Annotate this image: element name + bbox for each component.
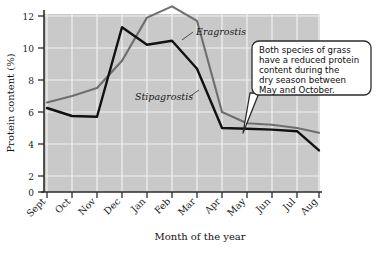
x-tick-apr: Apr [202,195,223,216]
y-tick-2: 2 [28,172,34,182]
chart-figure: 0 2 4 6 8 10 12 Sept Oct Nov [0,0,385,261]
x-tick-may: May [225,195,248,218]
x-tick-mar: Mar [176,195,198,217]
y-tick-8: 8 [28,76,34,86]
y-tick-6: 6 [28,108,34,118]
x-tick-aug: Aug [297,196,319,218]
x-tick-jun: Jun [253,196,273,216]
y-tick-12: 12 [23,12,34,22]
y-axis-title: Protein content (%) [5,53,16,152]
series-label-eragrostis: Eragrostis [195,26,246,37]
x-tick-nov: Nov [76,195,98,217]
x-tick-sept: Sept [24,196,47,219]
protein-content-line-chart: 0 2 4 6 8 10 12 Sept Oct Nov [0,0,385,261]
y-tick-10: 10 [23,44,35,54]
x-tick-dec: Dec [102,196,123,217]
y-axis-ticks [38,16,44,192]
callout-line-1: Both species of grass [259,45,351,55]
x-axis-title: Month of the year [154,231,245,242]
series-label-stipagrostis: Stipagrostis [135,91,193,102]
callout-line-3: content during the [259,65,339,75]
y-axis-tick-labels: 0 2 4 6 8 10 12 [23,12,35,198]
callout-line-2: have a reduced protein [259,55,359,65]
x-axis-tick-labels: Sept Oct Nov Dec Jan Feb Mar Apr May Jun… [24,195,319,219]
x-tick-oct: Oct [53,196,73,216]
callout-line-5: May and October. [259,85,335,95]
x-tick-feb: Feb [152,196,172,216]
x-tick-jul: Jul [280,196,298,214]
series-label-stipagrostis-group: Stipagrostis [135,90,199,102]
callout-line-4: dry season between [259,75,346,85]
y-tick-0: 0 [28,188,34,198]
x-tick-jan: Jan [128,196,148,216]
y-tick-4: 4 [28,140,34,150]
